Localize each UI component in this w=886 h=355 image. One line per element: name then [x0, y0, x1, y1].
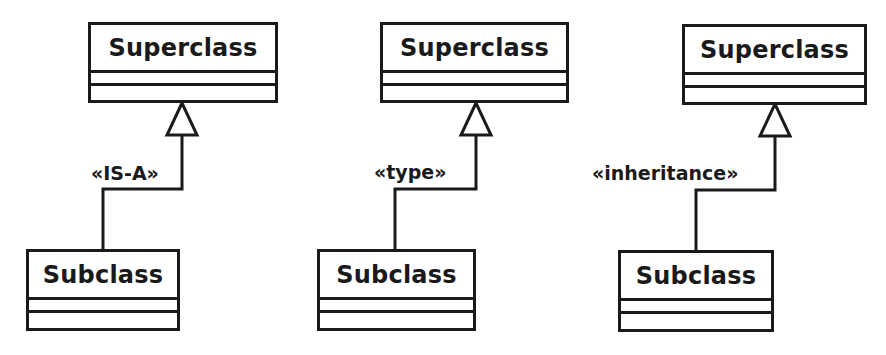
- superclass-box-2[interactable]: Superclass: [380, 22, 569, 103]
- uml-diagram-canvas: Superclass «IS-A» Subclass Superclass «t…: [0, 0, 886, 355]
- class-name: Superclass: [91, 25, 275, 73]
- stereotype-label: «type»: [374, 162, 447, 182]
- attributes-compartment: [621, 301, 771, 314]
- operations-compartment: [621, 314, 771, 324]
- attributes-compartment: [685, 75, 864, 88]
- stereotype-label: «inheritance»: [592, 163, 738, 183]
- superclass-box-3[interactable]: Superclass: [682, 24, 867, 105]
- superclass-box-1[interactable]: Superclass: [88, 22, 278, 103]
- hollow-triangle-arrowhead-icon: [760, 104, 790, 136]
- operations-compartment: [685, 88, 864, 98]
- attributes-compartment: [91, 73, 275, 86]
- class-name: Superclass: [383, 25, 566, 73]
- subclass-box-2[interactable]: Subclass: [317, 249, 476, 331]
- attributes-compartment: [29, 300, 177, 313]
- hollow-triangle-arrowhead-icon: [167, 103, 197, 135]
- attributes-compartment: [320, 300, 473, 313]
- operations-compartment: [29, 313, 177, 323]
- attributes-compartment: [383, 73, 566, 86]
- hollow-triangle-arrowhead-icon: [461, 103, 491, 135]
- subclass-box-3[interactable]: Subclass: [618, 250, 774, 332]
- operations-compartment: [91, 86, 275, 96]
- stereotype-label: «IS-A»: [91, 163, 159, 183]
- operations-compartment: [383, 86, 566, 96]
- class-name: Subclass: [320, 252, 473, 300]
- operations-compartment: [320, 313, 473, 323]
- class-name: Subclass: [621, 253, 771, 301]
- subclass-box-1[interactable]: Subclass: [26, 249, 180, 331]
- class-name: Subclass: [29, 252, 177, 300]
- class-name: Superclass: [685, 27, 864, 75]
